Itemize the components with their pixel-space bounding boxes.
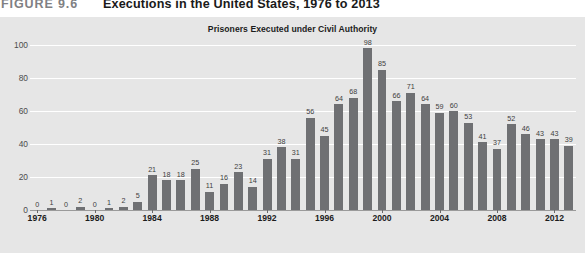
bar-group: 39: [564, 45, 573, 210]
bar: [392, 101, 401, 210]
bar-value-label: 1: [50, 198, 54, 207]
y-axis-tick-label: 100: [2, 40, 28, 50]
bar: [220, 184, 229, 210]
bar: [378, 70, 387, 210]
bar-group: 16: [220, 45, 229, 210]
bar-value-label: 59: [435, 102, 443, 111]
bar-group: 38: [277, 45, 286, 210]
x-axis-tick-label: 2008: [487, 213, 506, 223]
chart-subtitle: Prisoners Executed under Civil Authority: [0, 24, 585, 34]
bar-series: 0102012521181825111623143138315645646898…: [30, 45, 576, 210]
x-axis-tick-label: 1988: [200, 213, 219, 223]
bar: [406, 93, 415, 210]
bar-value-label: 16: [220, 173, 228, 182]
bar: [507, 124, 516, 210]
bar-group: 98: [363, 45, 372, 210]
bar-value-label: 43: [536, 129, 544, 138]
bar-value-label: 46: [522, 124, 530, 133]
bar-value-label: 0: [64, 200, 68, 209]
bar: [176, 180, 185, 210]
bar-value-label: 98: [364, 38, 372, 47]
bar: [162, 180, 171, 210]
bar: [248, 187, 257, 210]
figure-title: Executions in the United States, 1976 to…: [103, 0, 380, 11]
bar: [449, 111, 458, 210]
bar-group: 85: [378, 45, 387, 210]
bar-group: 64: [334, 45, 343, 210]
bar-value-label: 45: [321, 125, 329, 134]
bar: [133, 202, 142, 210]
bar: [478, 142, 487, 210]
bar-group: 71: [406, 45, 415, 210]
bar-group: 1: [47, 45, 56, 210]
bar-value-label: 1: [107, 198, 111, 207]
bar-group: 52: [507, 45, 516, 210]
bar: [334, 104, 343, 210]
bar-value-label: 0: [35, 200, 39, 209]
y-axis-tick-label: 40: [2, 139, 28, 149]
bar: [521, 134, 530, 210]
bar-value-label: 85: [378, 59, 386, 68]
y-axis-tick-label: 20: [2, 172, 28, 182]
bar: [349, 98, 358, 210]
bar-value-label: 11: [206, 181, 213, 190]
bar: [320, 136, 329, 210]
x-axis-line: [30, 210, 576, 211]
bar-value-label: 71: [407, 82, 415, 91]
bar-value-label: 68: [349, 87, 357, 96]
bar-group: 21: [148, 45, 157, 210]
bar-value-label: 5: [136, 191, 140, 200]
bar: [493, 149, 502, 210]
bar-group: 53: [464, 45, 473, 210]
bar-group: 2: [76, 45, 85, 210]
bar-value-label: 53: [464, 112, 472, 121]
bar-group: 43: [536, 45, 545, 210]
bar-value-label: 41: [479, 132, 487, 141]
bar-value-label: 66: [392, 91, 400, 100]
bar-group: 2: [119, 45, 128, 210]
bar-group: 5: [133, 45, 142, 210]
bar: [435, 113, 444, 210]
y-axis-tick-label: 60: [2, 106, 28, 116]
bar-group: 43: [550, 45, 559, 210]
x-axis-labels: 1976198019841988199219962000200420082012: [30, 213, 576, 231]
bar: [277, 147, 286, 210]
bar: [148, 175, 157, 210]
figure-number-label: FIGURE 9.6: [1, 0, 78, 11]
bar-value-label: 0: [93, 200, 97, 209]
bar: [263, 159, 272, 210]
bar: [191, 169, 200, 210]
bar-group: 31: [263, 45, 272, 210]
bar-group: 25: [191, 45, 200, 210]
bar-group: 14: [248, 45, 257, 210]
bar-group: 31: [291, 45, 300, 210]
x-axis-tick-label: 2004: [430, 213, 449, 223]
bar: [564, 146, 573, 210]
bar-value-label: 18: [177, 170, 185, 179]
bar-group: 45: [320, 45, 329, 210]
bar-group: 0: [61, 45, 70, 210]
bar: [464, 123, 473, 210]
bar-group: 59: [435, 45, 444, 210]
bar-group: 11: [205, 45, 214, 210]
bar: [306, 118, 315, 210]
bar-group: 56: [306, 45, 315, 210]
chart-panel: Prisoners Executed under Civil Authority…: [0, 17, 585, 253]
bar-value-label: 56: [306, 107, 314, 116]
bar-group: 1: [105, 45, 114, 210]
bar: [421, 104, 430, 210]
bar-group: 68: [349, 45, 358, 210]
y-axis-tick-label: 0: [2, 205, 28, 215]
bar-value-label: 64: [421, 94, 429, 103]
figure-container: FIGURE 9.6 Executions in the United Stat…: [0, 0, 585, 253]
x-axis-tick-label: 1996: [315, 213, 334, 223]
bar: [550, 139, 559, 210]
x-axis-tick-label: 1976: [28, 213, 47, 223]
bar-value-label: 39: [565, 135, 573, 144]
x-axis-tick-label: 2000: [372, 213, 391, 223]
bar-group: 0: [90, 45, 99, 210]
bar-group: 60: [449, 45, 458, 210]
bar: [536, 139, 545, 210]
bar-group: 41: [478, 45, 487, 210]
x-axis-tick-label: 1992: [258, 213, 277, 223]
